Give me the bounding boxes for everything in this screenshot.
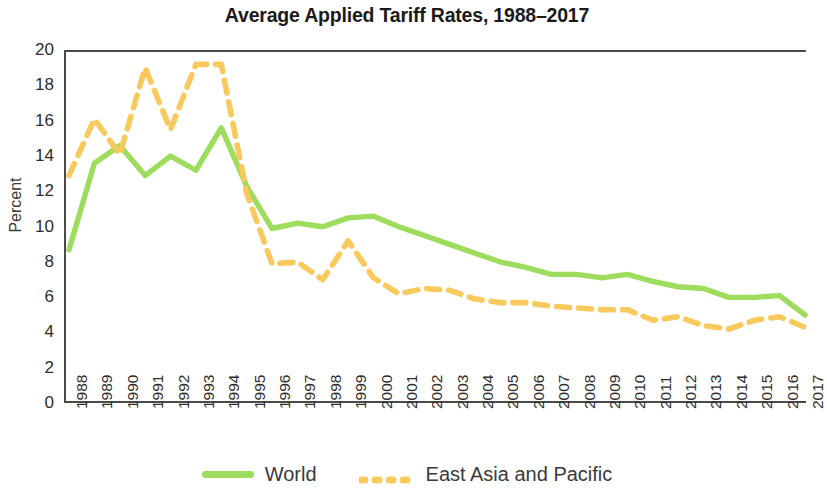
- x-tick-label: 2000: [378, 349, 396, 409]
- y-axis-label: Percent: [7, 155, 25, 255]
- x-tick-label: 2002: [428, 349, 446, 409]
- legend-swatch-east-asia-and-pacific-icon: [359, 470, 415, 478]
- x-tick-label: 1989: [98, 349, 116, 409]
- y-tick-label: 12: [8, 182, 54, 199]
- x-tick-label: 1999: [352, 349, 370, 409]
- x-tick-label: 2003: [454, 349, 472, 409]
- x-tick-label: 1997: [301, 349, 319, 409]
- x-tick-label: 2014: [733, 349, 751, 409]
- x-tick-label: 1998: [327, 349, 345, 409]
- y-tick-label: 8: [8, 253, 54, 270]
- x-tick-label: 2017: [809, 349, 827, 409]
- y-tick-label: 10: [8, 218, 54, 235]
- x-tick-label: 2009: [606, 349, 624, 409]
- x-tick-label: 1995: [251, 349, 269, 409]
- legend-item-east-asia-and-pacific[interactable]: East Asia and Pacific: [359, 464, 613, 484]
- chart-title: Average Applied Tariff Rates, 1988–2017: [0, 4, 814, 27]
- x-tick-label: 1991: [149, 349, 167, 409]
- x-tick-label: 2013: [707, 349, 725, 409]
- y-tick-label: 16: [8, 112, 54, 129]
- y-tick-label: 6: [8, 288, 54, 305]
- x-tick-label: 1994: [225, 349, 243, 409]
- y-tick-label: 0: [8, 394, 54, 411]
- x-tick-label: 2015: [758, 349, 776, 409]
- x-tick-label: 1992: [175, 349, 193, 409]
- legend-swatch-world-icon: [202, 471, 254, 478]
- x-tick-label: 1996: [276, 349, 294, 409]
- x-tick-label: 2004: [479, 349, 497, 409]
- y-tick-label: 2: [8, 359, 54, 376]
- x-tick-label: 2001: [403, 349, 421, 409]
- x-tick-label: 1990: [124, 349, 142, 409]
- y-tick-label: 18: [8, 76, 54, 93]
- legend-label-world: World: [265, 464, 317, 484]
- x-tick-label: 2010: [631, 349, 649, 409]
- x-tick-label: 1993: [200, 349, 218, 409]
- legend-label-east-asia-and-pacific: East Asia and Pacific: [426, 464, 613, 484]
- y-tick-label: 4: [8, 323, 54, 340]
- legend-item-world[interactable]: World: [202, 464, 317, 484]
- x-tick-label: 2005: [504, 349, 522, 409]
- x-tick-label: 2008: [581, 349, 599, 409]
- y-tick-label: 20: [8, 41, 54, 58]
- x-tick-label: 2006: [530, 349, 548, 409]
- x-tick-label: 2012: [682, 349, 700, 409]
- x-tick-label: 1988: [73, 349, 91, 409]
- x-tick-label: 2011: [657, 349, 675, 409]
- y-tick-label: 14: [8, 147, 54, 164]
- x-tick-label: 2016: [784, 349, 802, 409]
- chart-legend: World East Asia and Pacific: [0, 464, 814, 484]
- x-tick-label: 2007: [555, 349, 573, 409]
